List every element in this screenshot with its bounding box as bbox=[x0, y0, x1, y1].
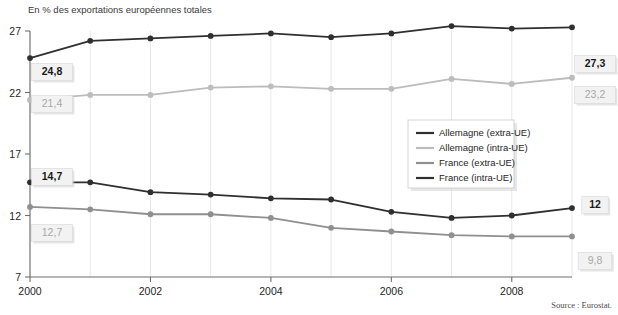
data-point bbox=[27, 55, 33, 61]
legend-label-1[interactable]: Allemagne (intra-UE) bbox=[439, 142, 528, 153]
chart-title: En % des exportations européennes totale… bbox=[28, 4, 212, 15]
data-point bbox=[208, 85, 214, 91]
data-point bbox=[87, 92, 93, 98]
left-value-label-1-text: 21,4 bbox=[42, 97, 63, 109]
data-point bbox=[148, 211, 154, 217]
data-point bbox=[509, 213, 515, 219]
legend-label-3[interactable]: France (intra-UE) bbox=[439, 172, 512, 183]
left-value-label-2-text: 14,7 bbox=[42, 170, 63, 182]
x-tick-label: 2004 bbox=[259, 285, 283, 297]
data-point bbox=[268, 195, 274, 201]
y-tick-label: 17 bbox=[9, 148, 21, 160]
data-point bbox=[328, 225, 334, 231]
data-point bbox=[148, 35, 154, 41]
x-axis-ticks: 20002002200420062008 bbox=[18, 277, 523, 297]
data-point bbox=[268, 31, 274, 37]
data-point bbox=[208, 211, 214, 217]
data-point bbox=[449, 215, 455, 221]
series-line-1 bbox=[30, 78, 572, 100]
data-point bbox=[328, 86, 334, 92]
data-point bbox=[388, 31, 394, 37]
data-point bbox=[87, 179, 93, 185]
data-point bbox=[148, 189, 154, 195]
data-point bbox=[87, 38, 93, 44]
data-point bbox=[328, 34, 334, 40]
y-tick-label: 12 bbox=[9, 210, 21, 222]
legend-label-2[interactable]: France (extra-UE) bbox=[439, 157, 515, 168]
data-point bbox=[388, 86, 394, 92]
data-point bbox=[569, 75, 575, 81]
y-tick-label: 27 bbox=[9, 25, 21, 37]
data-point bbox=[268, 215, 274, 221]
series-line-2 bbox=[30, 207, 572, 237]
data-point bbox=[27, 204, 33, 210]
data-point bbox=[449, 232, 455, 238]
chart-legend[interactable]: Allemagne (extra-UE)Allemagne (intra-UE)… bbox=[408, 120, 530, 191]
left-value-label-0-text: 24,8 bbox=[42, 65, 63, 77]
right-value-label-3-text: 9,8 bbox=[588, 254, 603, 266]
source-note: Source : Eurostat. bbox=[551, 300, 612, 310]
data-point bbox=[509, 234, 515, 240]
data-point bbox=[449, 76, 455, 82]
data-point bbox=[208, 192, 214, 198]
data-point bbox=[208, 33, 214, 39]
right-value-label-1-text: 23,2 bbox=[585, 88, 606, 100]
data-point bbox=[87, 206, 93, 212]
data-point bbox=[388, 209, 394, 215]
right-value-label-0-text: 27,3 bbox=[585, 57, 606, 69]
x-tick-label: 2000 bbox=[18, 285, 42, 297]
right-value-label-2-text: 12 bbox=[589, 198, 601, 210]
left-value-label-3-text: 12,7 bbox=[42, 226, 63, 238]
data-point bbox=[449, 23, 455, 29]
chart-container: En % des exportations européennes totale… bbox=[0, 0, 618, 315]
data-point bbox=[509, 81, 515, 87]
data-point bbox=[388, 229, 394, 235]
line-chart: En % des exportations européennes totale… bbox=[0, 0, 618, 315]
data-point bbox=[148, 92, 154, 98]
series-line-0 bbox=[30, 26, 572, 58]
data-point bbox=[569, 24, 575, 30]
x-tick-label: 2008 bbox=[500, 285, 524, 297]
y-tick-label: 22 bbox=[9, 87, 21, 99]
data-point bbox=[569, 234, 575, 240]
data-point bbox=[268, 83, 274, 89]
data-point bbox=[509, 26, 515, 32]
data-point bbox=[328, 197, 334, 203]
legend-label-0[interactable]: Allemagne (extra-UE) bbox=[439, 127, 530, 138]
x-tick-label: 2006 bbox=[380, 285, 404, 297]
data-point bbox=[569, 205, 575, 211]
x-tick-label: 2002 bbox=[139, 285, 163, 297]
y-tick-label: 7 bbox=[15, 271, 21, 283]
y-axis-ticks: 712172227 bbox=[9, 25, 30, 283]
